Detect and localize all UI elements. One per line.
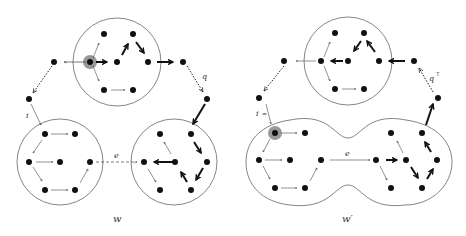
graph-w: i q e w xyxy=(17,18,217,224)
caption-w-prime: w′ xyxy=(342,213,354,224)
label-q: q xyxy=(202,72,207,81)
nodes-w xyxy=(26,31,210,193)
nodes-w-prime xyxy=(256,30,441,191)
label-i-prime: i xyxy=(256,109,259,118)
diagram-canvas: i q e w xyxy=(0,0,466,236)
label-i-mark: ≈ xyxy=(262,110,267,117)
caption-w: w xyxy=(113,213,122,224)
label-e: e xyxy=(114,151,119,160)
label-q-sup: ⊤ xyxy=(435,70,441,77)
label-q-prime: q xyxy=(429,74,434,83)
label-i: i xyxy=(26,111,29,120)
label-e-prime: e xyxy=(345,149,350,158)
graph-w-prime: i ≈ q ⊤ e w′ xyxy=(246,17,452,224)
